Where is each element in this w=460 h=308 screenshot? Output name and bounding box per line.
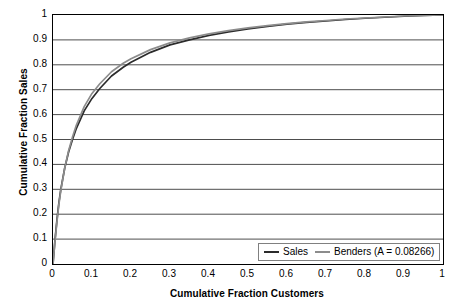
y-axis-tick-labels: 00.10.20.30.40.50.60.70.80.91 <box>22 14 47 263</box>
y-tick-label: 1 <box>22 9 47 19</box>
y-tick-label: 0.2 <box>22 208 47 218</box>
legend-entry-1: Sales <box>264 247 308 257</box>
y-tick-label: 0.9 <box>22 34 47 44</box>
x-axis-tick-labels: 00.10.20.30.40.50.60.70.80.91 <box>52 268 442 280</box>
legend-entry-2: Benders (A = 0.08266) <box>315 247 434 257</box>
y-tick-text: 0.1 <box>22 233 47 243</box>
legend-label: Sales <box>283 247 308 257</box>
legend-line-icon <box>264 251 279 253</box>
legend-label: Benders (A = 0.08266) <box>334 247 434 257</box>
x-axis-title: Cumulative Fraction Customers <box>52 288 442 299</box>
y-tick-label: 0.8 <box>22 59 47 69</box>
y-tick-text: 0.6 <box>22 109 47 119</box>
y-tick-text: 0.7 <box>22 84 47 94</box>
x-tick-label: 0.1 <box>71 268 111 280</box>
y-tick-label: 0 <box>22 258 47 268</box>
x-tick-label: 0 <box>32 268 72 280</box>
y-tick-text: 0.2 <box>22 208 47 218</box>
plot-svg <box>53 15 443 264</box>
y-tick-label: 0.3 <box>22 183 47 193</box>
legend-line-icon <box>315 251 330 253</box>
y-tick-text: 1 <box>22 9 47 19</box>
y-tick-label: 0.6 <box>22 109 47 119</box>
x-tick-label: 0.7 <box>305 268 345 280</box>
y-tick-text: 0.5 <box>22 134 47 144</box>
y-tick-text: 0.3 <box>22 183 47 193</box>
x-tick-label: 1 <box>422 268 460 280</box>
x-tick-label: 0.3 <box>149 268 189 280</box>
x-tick-label: 0.8 <box>344 268 384 280</box>
y-tick-label: 0.5 <box>22 134 47 144</box>
x-tick-label: 0.6 <box>266 268 306 280</box>
x-tick-label: 0.5 <box>227 268 267 280</box>
x-tick-label: 0.2 <box>110 268 150 280</box>
x-tick-label: 0.4 <box>188 268 228 280</box>
chart-legend: SalesBenders (A = 0.08266) <box>258 243 440 261</box>
plot-area <box>52 14 444 265</box>
y-tick-label: 0.4 <box>22 158 47 168</box>
y-tick-label: 0.1 <box>22 233 47 243</box>
y-tick-text: 0.4 <box>22 158 47 168</box>
x-tick-label: 0.9 <box>383 268 423 280</box>
gridlines <box>53 40 443 239</box>
y-tick-text: 0.9 <box>22 34 47 44</box>
y-tick-text: 0 <box>22 258 47 268</box>
lorenz-curve-chart: Cumulative Fraction Sales 00.10.20.30.40… <box>0 0 460 308</box>
y-tick-text: 0.8 <box>22 59 47 69</box>
y-tick-label: 0.7 <box>22 84 47 94</box>
